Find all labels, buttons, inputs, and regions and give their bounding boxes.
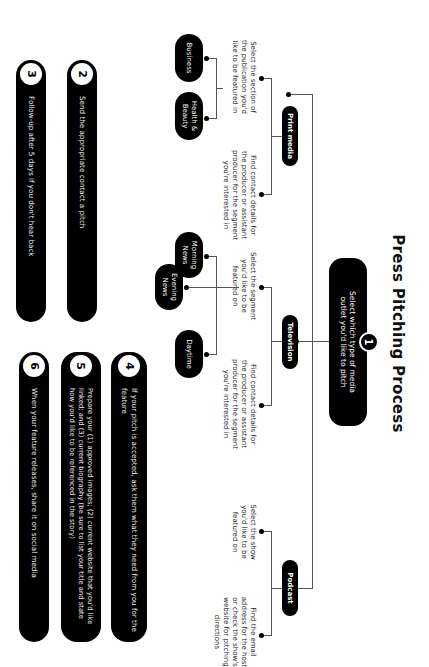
option-label: Business <box>185 43 194 74</box>
connector <box>272 588 282 589</box>
connector <box>297 341 313 342</box>
outlet-television: Television <box>282 315 298 369</box>
step-1-badge: 1 <box>359 332 379 352</box>
step-6-badge: 6 <box>23 355 45 377</box>
connector <box>271 531 272 635</box>
television-right-text: Find contact details for the producer or… <box>221 358 257 450</box>
connector-dot <box>259 403 264 408</box>
step-1-text: Select which type of media outlet you'd … <box>339 258 357 426</box>
step-5-text: Prepare your (1) approved images; (2) cu… <box>68 388 95 642</box>
page-title: Press Pitching Process <box>389 0 407 667</box>
connector <box>272 341 282 342</box>
option-label: Daytime <box>185 339 194 369</box>
outlet-podcast: Podcast <box>282 560 298 616</box>
option-evening-news: Evening News <box>155 264 183 310</box>
option-label: Health & Beauty <box>180 92 198 140</box>
step-3-badge: 3 <box>20 63 42 85</box>
step-4-text: If your pitch is accepted, ask them what… <box>119 388 139 642</box>
option-business: Business <box>175 34 203 82</box>
print-media-right-text: Find contact details for the producer or… <box>221 150 257 240</box>
outlet-print-media: Print media <box>282 106 298 166</box>
connector <box>217 88 223 89</box>
connector-dot <box>259 529 264 534</box>
option-health-beauty: Health & Beauty <box>175 92 203 140</box>
step-5-badge: 5 <box>70 355 92 377</box>
step-2-badge: 2 <box>71 63 93 85</box>
step-6-text: When your feature releases, share it on … <box>29 388 39 588</box>
connector <box>313 341 329 342</box>
option-label: Evening News <box>160 264 178 310</box>
television-left-text: Select the segment you'd like to be feat… <box>230 246 257 326</box>
press-pitching-diagram: Press Pitching Process Select which type… <box>0 0 429 667</box>
step-3-node: 3 Follow-up after 5 days if you don't he… <box>16 60 46 322</box>
connector-dot <box>204 116 209 121</box>
step-4-badge: 4 <box>118 355 140 377</box>
connector-dot <box>259 633 264 638</box>
connector <box>271 287 272 405</box>
step-4-node: 4 If your pitch is accepted, ask them wh… <box>111 352 147 642</box>
step-5-node: 5 Prepare your (1) approved images; (2) … <box>61 352 101 642</box>
print-media-left-text: Select the section of the publication yo… <box>230 40 257 114</box>
connector <box>216 256 217 354</box>
podcast-left-text: Select the show you'd like to be feature… <box>230 494 257 570</box>
connector-dot <box>259 285 264 290</box>
option-daytime: Daytime <box>175 330 203 378</box>
option-label: Morning News <box>180 232 198 278</box>
step-3-text: Follow-up after 5 days if you don't hear… <box>26 96 36 267</box>
connector <box>271 78 272 194</box>
outlet-label: Television <box>286 322 295 361</box>
step-6-node: 6 When your feature releases, share it o… <box>19 352 49 642</box>
connector-dot <box>204 56 209 61</box>
connector-dot <box>184 285 189 290</box>
podcast-right-text: Find the email address for the host or c… <box>212 594 257 667</box>
outlet-label: Print media <box>286 113 295 159</box>
connector <box>187 287 239 288</box>
connector-dot <box>259 76 264 81</box>
connector <box>272 136 282 137</box>
connector-dot <box>286 92 291 97</box>
step-2-text: Send the appropriate contact a pitch <box>77 96 87 238</box>
connector-dot <box>204 352 209 357</box>
step-2-node: 2 Send the appropriate contact a pitch <box>67 60 97 322</box>
connector <box>289 94 313 95</box>
outlet-label: Podcast <box>286 572 295 603</box>
connector-dot <box>259 192 264 197</box>
connector-dot <box>204 254 209 259</box>
